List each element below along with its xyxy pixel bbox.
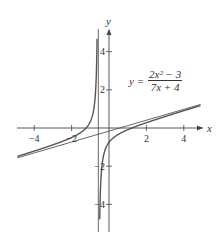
y-axis-label: y <box>105 15 111 27</box>
equation-fraction: 2x² − 3 7x + 4 <box>148 68 182 93</box>
curve-right-branch <box>100 106 201 220</box>
x-axis-label: x <box>206 122 212 134</box>
x-tick-label: 4 <box>181 133 186 144</box>
x-axis-arrow-icon <box>197 126 203 131</box>
y-axis-arrow-icon <box>107 29 112 35</box>
y-tick-label: −2 <box>94 161 105 172</box>
chart-plot: −4−22442−2−4 x y <box>0 0 224 248</box>
x-tick-label: −4 <box>29 133 40 144</box>
y-tick-label: 4 <box>100 46 105 57</box>
x-tick-label: −2 <box>66 133 77 144</box>
x-tick-label: 2 <box>144 133 149 144</box>
equation-annotation: y = 2x² − 3 7x + 4 <box>129 68 182 93</box>
y-tick-label: 2 <box>100 84 105 95</box>
equation-denominator: 7x + 4 <box>151 81 180 93</box>
y-tick-label: −4 <box>94 199 105 210</box>
equation-lhs: y = <box>129 75 144 87</box>
equation-numerator: 2x² − 3 <box>148 68 182 81</box>
